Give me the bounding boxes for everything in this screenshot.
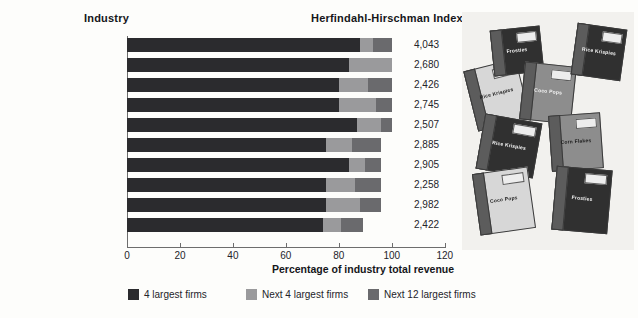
stacked-bar <box>127 98 392 112</box>
bar-segment <box>127 38 360 52</box>
legend-swatch <box>246 289 257 300</box>
x-tick <box>127 243 128 248</box>
bar-segment <box>381 118 392 132</box>
cereal-box: Coco Pops <box>472 166 536 235</box>
bar-segment <box>323 218 342 232</box>
bar-segment <box>355 178 381 192</box>
hhi-value: 2,258 <box>414 178 439 192</box>
bar-segment <box>127 158 349 172</box>
legend-label: Next 12 largest firms <box>384 289 476 300</box>
legend-item: Next 4 largest firms <box>246 288 348 300</box>
bar-segment <box>349 58 391 72</box>
hhi-value: 4,043 <box>414 38 439 52</box>
bar-segment <box>376 98 392 112</box>
x-tick <box>392 243 393 248</box>
bar-segment <box>326 138 352 152</box>
x-tick <box>233 243 234 248</box>
x-tick-label: 0 <box>124 250 130 261</box>
bar-segment <box>326 198 360 212</box>
hhi-value: 2,905 <box>414 158 439 172</box>
x-tick-label: 60 <box>280 250 291 261</box>
bar-segment <box>339 98 376 112</box>
cereal-box-corner-flash <box>585 173 608 185</box>
industry-column-header: Industry <box>84 12 129 24</box>
stacked-bar <box>127 38 392 52</box>
stacked-bar <box>127 158 381 172</box>
legend-item: Next 12 largest firms <box>368 288 476 300</box>
legend-label: Next 4 largest firms <box>262 289 348 300</box>
stacked-bar <box>127 198 381 212</box>
x-tick <box>180 243 181 248</box>
bar-segment <box>373 38 392 52</box>
cereal-box: Rice Krispies <box>571 23 628 81</box>
bar-segment <box>127 98 339 112</box>
bar-segment <box>127 78 339 92</box>
bar-segment <box>127 198 326 212</box>
cereal-box: Frosties <box>551 166 612 235</box>
bar-segment <box>127 58 349 72</box>
bar-segment <box>341 218 362 232</box>
bar-segment <box>368 78 392 92</box>
legend-swatch <box>368 289 379 300</box>
bar-segment <box>127 118 357 132</box>
bar-segment <box>127 138 326 152</box>
bar-segment <box>326 178 355 192</box>
bar-segment <box>360 198 381 212</box>
hhi-value: 2,422 <box>414 218 439 232</box>
stacked-bar <box>127 218 363 232</box>
bar-segment <box>352 138 381 152</box>
x-axis-title: Percentage of industry total revenue <box>272 263 454 275</box>
legend-swatch <box>128 289 139 300</box>
bar-segment <box>357 118 381 132</box>
bar-segment <box>360 38 373 52</box>
stacked-bar <box>127 138 381 152</box>
stacked-bar <box>127 58 392 72</box>
cereal-boxes-photo: Rice KrispiesFrostiesCoco PopsRice Krisp… <box>462 12 634 250</box>
cereal-box-corner-flash <box>516 31 537 43</box>
x-tick-label: 100 <box>383 250 400 261</box>
cereal-box: Corn Flakes <box>548 112 604 171</box>
hhi-value: 2,982 <box>414 198 439 212</box>
bar-segment <box>339 78 368 92</box>
x-tick <box>445 243 446 248</box>
x-tick-label: 40 <box>227 250 238 261</box>
legend-label: 4 largest firms <box>144 289 207 300</box>
stacked-bar <box>127 178 381 192</box>
x-tick-label: 20 <box>174 250 185 261</box>
bar-segment <box>349 158 365 172</box>
chart-legend: 4 largest firmsNext 4 largest firmsNext … <box>128 288 458 302</box>
stacked-bar <box>127 78 392 92</box>
hhi-value: 2,507 <box>414 118 439 132</box>
bar-segment <box>365 158 381 172</box>
figure-root: Industry Herfindahl-Hirschman Index 0204… <box>0 0 638 318</box>
legend-item: 4 largest firms <box>128 288 207 300</box>
cereal-box-corner-flash <box>575 118 596 129</box>
hhi-value: 2,680 <box>414 58 439 72</box>
cereal-box-corner-flash <box>550 69 572 81</box>
bar-segment <box>127 218 323 232</box>
x-tick <box>286 243 287 248</box>
hhi-value: 2,885 <box>414 138 439 152</box>
x-tick-label: 120 <box>436 250 453 261</box>
x-tick <box>339 243 340 248</box>
hhi-value: 2,426 <box>414 78 439 92</box>
hhi-value: 2,745 <box>414 98 439 112</box>
stacked-bar <box>127 118 392 132</box>
hhi-column-header: Herfindahl-Hirschman Index <box>311 12 463 24</box>
bar-segment <box>127 178 326 192</box>
x-tick-label: 80 <box>333 250 344 261</box>
